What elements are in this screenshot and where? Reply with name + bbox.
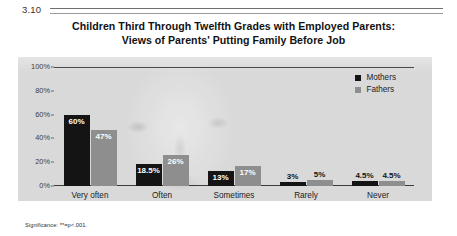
bar-group: 4.5%4.5%Never [342,67,414,186]
bar-mothers-never[interactable]: 4.5% [352,181,378,186]
bar-value-label: 4.5% [355,171,373,180]
title-line-2: Views of Parents' Putting Family Before … [30,34,437,48]
y-axis-tick: 100% [31,63,50,71]
bar-value-label: 5% [314,170,326,179]
title-line-1: Children Third Through Twelfth Grades wi… [30,20,437,34]
bar-fathers-sometimes[interactable]: 17% [235,166,261,186]
x-axis-category-label: Rarely [270,191,342,201]
y-axis-tick: 40% [35,134,50,142]
bar-value-label: 60% [68,117,84,126]
bar-group-bars: 60%47% [54,67,126,186]
bar-mothers-rarely[interactable]: 3% [280,182,306,186]
bar-fathers-rarely[interactable]: 5% [307,180,333,186]
significance-note: Significance: **=p<.001. [25,222,87,229]
bar-fathers-never[interactable]: 4.5% [379,181,405,186]
bar-group: 60%47%Very often [54,67,126,186]
bar-fathers-often[interactable]: 26% [163,155,189,186]
y-axis-tick: 0% [39,182,50,190]
bar-value-label: 17% [239,168,255,177]
y-axis-tick: 80% [35,87,50,95]
figure-container: 3.10 Children Third Through Twelfth Grad… [0,0,457,236]
bar-group: 13%17%Sometimes [198,67,270,186]
bar-group: 18.5%26%Often [126,67,198,186]
bar-mothers-often[interactable]: 18.5% [136,164,162,186]
bar-mothers-very-often[interactable]: 60% [64,115,90,186]
x-axis-category-label: Very often [54,191,126,201]
bar-fathers-very-often[interactable]: 47% [91,130,117,186]
figure-rule [50,8,443,14]
y-axis-tick: 20% [35,158,50,166]
chart-panel: Mothers Fathers 0%20%40%60%80%100%60%47%… [18,57,432,201]
bar-value-label: 13% [212,173,228,182]
bar-value-label: 18.5% [137,166,160,175]
bar-group-bars: 4.5%4.5% [342,67,414,186]
x-axis-category-label: Often [126,191,198,201]
bar-group-bars: 13%17% [198,67,270,186]
bar-value-label: 47% [95,132,111,141]
x-axis-category-label: Never [342,191,414,201]
x-axis-category-label: Sometimes [198,191,270,201]
bar-value-label: 26% [167,157,183,166]
plot-area: 0%20%40%60%80%100%60%47%Very often18.5%2… [54,67,414,186]
bar-value-label: 4.5% [382,171,400,180]
figure-title: Children Third Through Twelfth Grades wi… [30,20,437,47]
bar-group-bars: 18.5%26% [126,67,198,186]
bar-mothers-sometimes[interactable]: 13% [208,171,234,186]
bar-group: 3%5%Rarely [270,67,342,186]
bar-value-label: 3% [287,172,299,181]
bar-group-bars: 3%5% [270,67,342,186]
figure-header: 3.10 [22,4,443,18]
y-axis-tick: 60% [35,111,50,119]
figure-number: 3.10 [22,4,41,15]
